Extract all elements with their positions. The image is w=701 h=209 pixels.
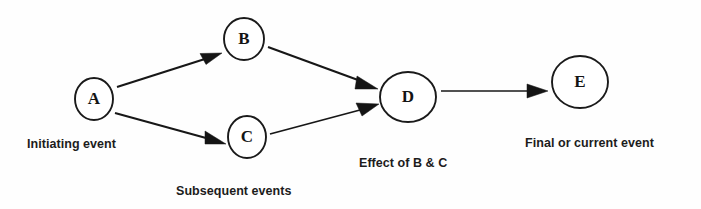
node-c-label: C xyxy=(241,127,253,146)
edge-c-to-d-line xyxy=(270,110,360,134)
event-chain-diagram: A B C D E Initiating event Subsequent ev… xyxy=(0,0,701,209)
edge-c-to-d xyxy=(270,103,379,134)
edge-a-to-c xyxy=(115,113,226,144)
edge-a-to-b-arrowhead xyxy=(200,53,222,65)
node-e-label: E xyxy=(574,72,586,91)
edge-d-to-e xyxy=(441,84,548,98)
node-d-label: D xyxy=(402,87,414,106)
edge-c-to-d-arrowhead xyxy=(356,103,379,116)
edge-a-to-b xyxy=(117,53,222,87)
node-a-label: A xyxy=(88,89,101,108)
caption-final-or-current-event: Final or current event xyxy=(525,137,654,150)
caption-initiating-event: Initiating event xyxy=(27,138,116,151)
edge-b-to-d xyxy=(268,47,378,89)
caption-subsequent-events: Subsequent events xyxy=(176,185,291,198)
node-e[interactable]: E xyxy=(552,56,608,108)
edge-d-to-e-arrowhead xyxy=(527,84,548,98)
node-c[interactable]: C xyxy=(228,116,266,158)
node-b-label: B xyxy=(238,29,250,48)
edge-b-to-d-arrowhead xyxy=(355,76,378,89)
caption-effect-of-b-and-c: Effect of B & C xyxy=(359,157,447,170)
diagram-graphics-layer: A B C D E xyxy=(0,0,701,209)
edge-b-to-d-line xyxy=(268,47,358,80)
node-b[interactable]: B xyxy=(224,18,264,60)
edge-a-to-c-line xyxy=(115,113,206,138)
node-d[interactable]: D xyxy=(380,72,436,122)
node-a[interactable]: A xyxy=(75,78,113,120)
edge-a-to-b-line xyxy=(117,58,208,87)
edge-a-to-c-arrowhead xyxy=(205,131,226,144)
